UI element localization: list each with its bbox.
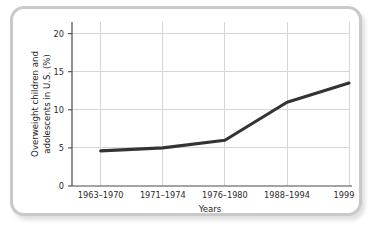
x-tick-label-1971-1974: 1971–1974 xyxy=(140,190,186,200)
y-axis-title-line2: adolescents in U.S. (%) xyxy=(42,54,52,154)
y-tick-label-20: 20 xyxy=(54,29,64,39)
y-tick-label-15: 15 xyxy=(54,67,64,77)
y-axis-title-line1: Overweight children and xyxy=(30,51,40,157)
y-tick-label-10: 10 xyxy=(54,105,64,115)
line-chart: 0 5 10 15 20 1963–1970 1971–1974 1976–19… xyxy=(0,0,384,238)
figure-root: 0 5 10 15 20 1963–1970 1971–1974 1976–19… xyxy=(0,0,384,238)
horizontal-gridlines xyxy=(72,34,349,148)
y-tick-label-5: 5 xyxy=(59,143,64,153)
vertical-gridlines xyxy=(101,22,349,186)
x-axis-title: Years xyxy=(198,204,222,214)
x-tick-label-1999: 1999 xyxy=(334,190,355,200)
y-axis-title: Overweight children and adolescents in U… xyxy=(30,51,52,157)
chart-svg: 0 5 10 15 20 1963–1970 1971–1974 1976–19… xyxy=(0,0,384,238)
y-tick-label-0: 0 xyxy=(59,181,64,191)
x-tick-label-1976-1980: 1976–1980 xyxy=(202,190,248,200)
x-tick-label-1963-1970: 1963–1970 xyxy=(78,190,124,200)
x-tick-label-1988-1994: 1988–1994 xyxy=(264,190,310,200)
